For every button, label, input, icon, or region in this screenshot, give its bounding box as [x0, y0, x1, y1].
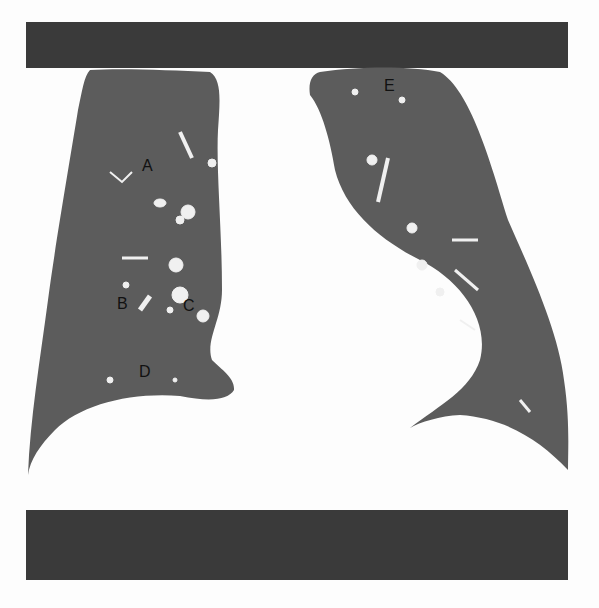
label-c: C — [183, 298, 195, 314]
label-a: A — [142, 158, 153, 174]
right-lung — [28, 69, 234, 475]
lungs-svg — [0, 0, 599, 608]
label-d: D — [139, 364, 151, 380]
label-e: E — [384, 78, 395, 94]
label-b: B — [117, 296, 128, 312]
ct-image: A B C D E — [0, 0, 599, 608]
